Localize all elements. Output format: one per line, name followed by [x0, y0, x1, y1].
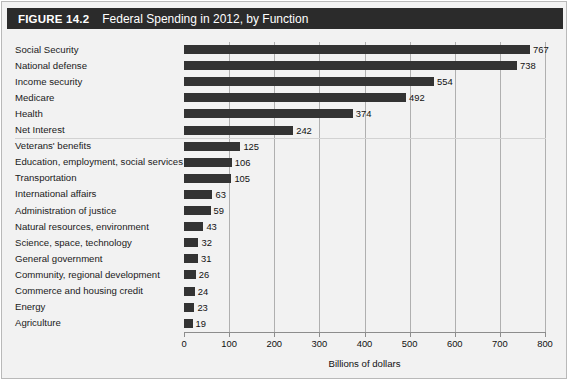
x-tick-0: [184, 332, 185, 337]
bar-value-label: 492: [409, 93, 425, 102]
bar: [184, 142, 240, 151]
x-tick-label-800: 800: [530, 338, 560, 349]
category-label: Community, regional development: [15, 270, 183, 280]
x-tick-500: [410, 332, 411, 337]
bar-value-label: 106: [235, 158, 251, 167]
x-tick-700: [500, 332, 501, 337]
x-tick-label-0: 0: [169, 338, 199, 349]
category-label: Veterans' benefits: [15, 141, 183, 151]
bar-value-label: 554: [437, 77, 453, 86]
gridline-600: [455, 42, 456, 332]
category-label: Net Interest: [15, 125, 183, 135]
bar-value-label: 23: [197, 303, 207, 312]
bar-value-label: 242: [296, 126, 312, 135]
x-tick-label-600: 600: [440, 338, 470, 349]
x-axis-tick-labels: 0100200300400500600700800: [2, 338, 568, 352]
x-tick-label-400: 400: [350, 338, 380, 349]
figure-header-bar: FIGURE 14.2 Federal Spending in 2012, by…: [7, 8, 563, 29]
category-label: Income security: [15, 77, 183, 87]
x-tick-200: [274, 332, 275, 337]
x-tick-label-700: 700: [485, 338, 515, 349]
bar: [184, 222, 203, 231]
bar-value-label: 767: [533, 45, 549, 54]
bar: [184, 238, 198, 247]
category-label: Agriculture: [15, 318, 183, 328]
plot-wrap: Social SecurityNational defenseIncome se…: [2, 35, 568, 335]
category-label: Science, space, technology: [15, 238, 183, 248]
category-label: Education, employment, social services: [15, 157, 183, 167]
figure-number: FIGURE 14.2: [18, 13, 89, 25]
bar: [184, 190, 212, 199]
bar: [184, 303, 194, 312]
gridline-800: [545, 42, 546, 332]
bar-value-label: 26: [199, 270, 209, 279]
category-label: National defense: [15, 61, 183, 71]
plot-box: [184, 42, 545, 332]
category-label: Natural resources, environment: [15, 222, 183, 232]
bar-value-label: 105: [234, 174, 250, 183]
category-label: Administration of justice: [15, 206, 183, 216]
section-divider: [15, 138, 546, 139]
category-label: Transportation: [15, 173, 183, 183]
bar: [184, 287, 195, 296]
figure-frame: FIGURE 14.2 Federal Spending in 2012, by…: [1, 1, 567, 379]
x-tick-label-500: 500: [395, 338, 425, 349]
bar: [184, 158, 232, 167]
bar: [184, 270, 196, 279]
x-tick-600: [455, 332, 456, 337]
x-tick-label-200: 200: [259, 338, 289, 349]
x-tick-label-100: 100: [214, 338, 244, 349]
x-tick-300: [319, 332, 320, 337]
bar-value-label: 31: [201, 254, 211, 263]
category-label: Commerce and housing credit: [15, 286, 183, 296]
category-label: Social Security: [15, 45, 183, 55]
bar-value-label: 43: [206, 222, 216, 231]
bar: [184, 319, 193, 328]
bar-value-label: 63: [215, 190, 225, 199]
bar: [184, 61, 517, 70]
x-tick-100: [229, 332, 230, 337]
x-tick-800: [545, 332, 546, 337]
x-tick-400: [365, 332, 366, 337]
bar-value-label: 374: [356, 109, 372, 118]
bar: [184, 254, 198, 263]
bar-value-label: 24: [198, 287, 208, 296]
bar-value-label: 59: [214, 206, 224, 215]
bar: [184, 206, 211, 215]
bar-chart: Social SecurityNational defenseIncome se…: [2, 35, 568, 380]
x-tick-label-300: 300: [304, 338, 334, 349]
figure-title: Federal Spending in 2012, by Function: [102, 12, 308, 26]
bar: [184, 45, 530, 54]
bar: [184, 174, 231, 183]
bar-value-label: 738: [520, 61, 536, 70]
category-label: General government: [15, 254, 183, 264]
bar-value-label: 19: [196, 319, 206, 328]
bar: [184, 93, 406, 102]
bar: [184, 109, 353, 118]
bar-value-label: 125: [243, 142, 259, 151]
bar-value-label: 32: [201, 238, 211, 247]
category-label: Energy: [15, 302, 183, 312]
bar: [184, 126, 293, 135]
gridline-700: [500, 42, 501, 332]
category-label: International affairs: [15, 189, 183, 199]
bar: [184, 77, 434, 86]
category-label: Health: [15, 109, 183, 119]
x-axis-title: Billions of dollars: [184, 358, 545, 369]
category-label: Medicare: [15, 93, 183, 103]
